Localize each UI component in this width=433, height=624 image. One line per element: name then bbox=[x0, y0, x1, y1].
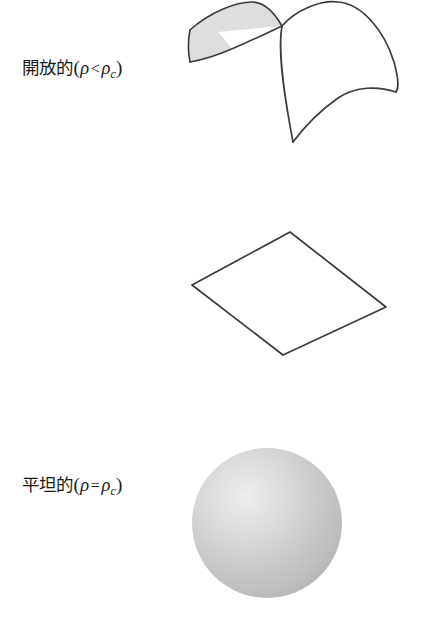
label-open: 開放的(ρ<ρc) bbox=[22, 58, 192, 80]
label-open-rho-crit: ρ bbox=[101, 58, 110, 78]
sphere-ball bbox=[192, 448, 342, 598]
shape-sphere bbox=[186, 442, 352, 608]
plane-svg bbox=[178, 224, 408, 364]
shape-saddle-surface bbox=[178, 0, 433, 175]
label-open-close-paren: ) bbox=[116, 57, 123, 78]
figure-row-flat: 平坦的(ρ=ρc) bbox=[0, 200, 433, 390]
saddle-svg bbox=[178, 0, 433, 175]
label-open-relation: < bbox=[89, 60, 101, 77]
figure-row-closed: 封閉的(ρ>ρc) bbox=[0, 420, 433, 624]
geometry-of-universe-figure: 開放的(ρ<ρc) bbox=[0, 0, 433, 624]
label-open-term: 開放的 bbox=[22, 58, 74, 78]
plane-parallelogram bbox=[192, 232, 386, 355]
shape-flat-plane bbox=[178, 224, 408, 364]
figure-row-open: 開放的(ρ<ρc) bbox=[0, 0, 433, 190]
sphere-svg bbox=[186, 442, 352, 608]
label-open-rho: ρ bbox=[80, 58, 89, 78]
